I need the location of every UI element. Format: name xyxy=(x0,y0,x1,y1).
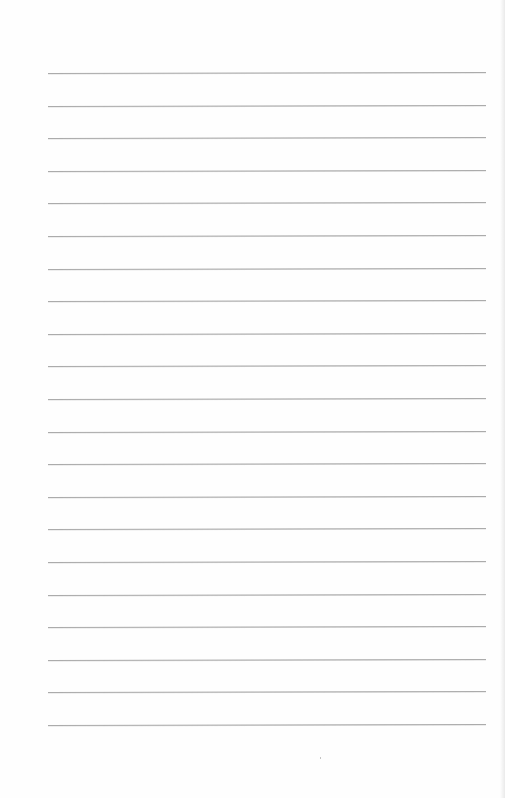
ruled-line xyxy=(48,333,486,335)
ruled-line xyxy=(48,463,486,465)
ruled-line xyxy=(48,137,486,139)
ruled-line xyxy=(48,398,486,400)
ruled-line xyxy=(48,170,486,172)
ruled-line xyxy=(48,105,486,107)
page-edge-shadow xyxy=(500,0,505,798)
ruled-line xyxy=(48,235,486,237)
scan-speck xyxy=(320,757,321,759)
ruled-line xyxy=(48,626,486,628)
ruled-paper-page xyxy=(0,0,505,798)
ruled-line xyxy=(48,594,486,596)
ruled-line xyxy=(48,691,486,693)
ruled-line xyxy=(48,202,486,204)
ruled-line xyxy=(48,72,486,74)
ruled-line xyxy=(48,496,486,498)
ruled-line xyxy=(48,300,486,302)
ruled-line xyxy=(48,561,486,563)
ruled-line xyxy=(48,724,486,726)
ruled-line xyxy=(48,659,486,661)
ruled-line xyxy=(48,528,486,530)
ruled-line xyxy=(48,431,486,433)
ruled-line xyxy=(48,365,486,367)
ruled-line xyxy=(48,268,486,270)
